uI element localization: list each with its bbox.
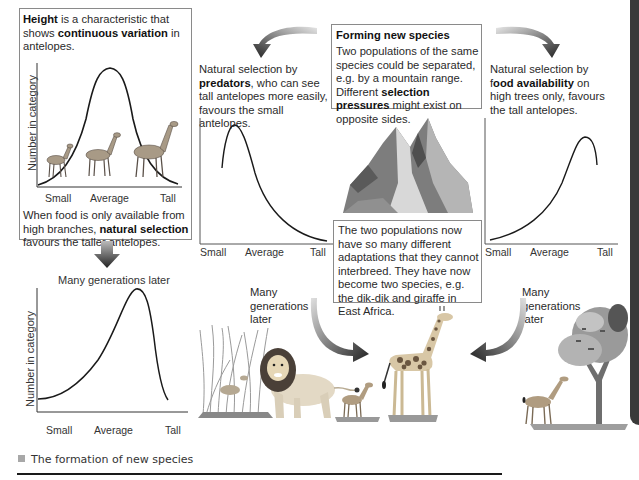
skewed-distribution-chart [36, 288, 196, 438]
lion-in-grass-illustration [198, 320, 338, 430]
keyword-food-availability: ood availability [493, 77, 574, 89]
x-tick-small: Small [200, 246, 226, 258]
figure-caption: The formation of new species [18, 453, 193, 466]
x-tick-tall: Tall [310, 246, 326, 258]
curved-arrow-right-icon [494, 22, 574, 62]
average-antelope-icon [86, 133, 121, 176]
food-availability-note: Natural selection by food availability o… [490, 63, 610, 117]
caption-text: The formation of new species [31, 453, 193, 466]
x-tick-small: Small [485, 246, 511, 258]
keyword-natural-selection: natural selection [100, 223, 189, 235]
x-tick-average: Average [94, 424, 133, 436]
note-text: Natural selection by [199, 63, 297, 75]
mountain-range-illustration [338, 113, 478, 218]
food-selection-chart [484, 118, 619, 248]
curved-arrow-left-icon [245, 22, 325, 62]
dik-dik-and-giraffe-illustration [330, 305, 470, 435]
x-tick-tall: Tall [160, 192, 176, 204]
antelope-browsing-tree-illustration [510, 300, 630, 435]
x-tick-average: Average [245, 246, 284, 258]
later-chart-title: Many generations later [58, 274, 170, 286]
x-tick-tall: Tall [165, 424, 181, 436]
forming-box-title: Forming new species [336, 29, 450, 41]
normal-distribution-chart [20, 9, 193, 241]
keyword-predators: predators [199, 77, 251, 89]
page-edge-tab [630, 0, 639, 425]
new-species-outcome-box: The two populations now have so many dif… [333, 220, 482, 303]
x-tick-average: Average [90, 192, 129, 204]
predator-selection-chart [199, 118, 334, 248]
x-tick-tall: Tall [597, 246, 613, 258]
browsing-antelope-icon [523, 377, 569, 425]
y-axis-label: Number in category [24, 311, 36, 407]
bottom-rule [17, 473, 502, 475]
x-tick-average: Average [530, 246, 569, 258]
x-tick-small: Small [46, 424, 72, 436]
dik-dik-icon [342, 383, 373, 418]
tall-antelope-icon [134, 121, 178, 177]
x-tick-small: Small [45, 192, 71, 204]
caption-marker-icon [18, 455, 25, 462]
giraffe-icon [382, 306, 453, 417]
continuous-variation-panel: Height is a characteristic that shows co… [19, 8, 192, 240]
forming-new-species-box: Forming new species Two populations of t… [331, 24, 482, 109]
tree-icon [558, 304, 628, 430]
down-arrow-icon [92, 241, 122, 269]
